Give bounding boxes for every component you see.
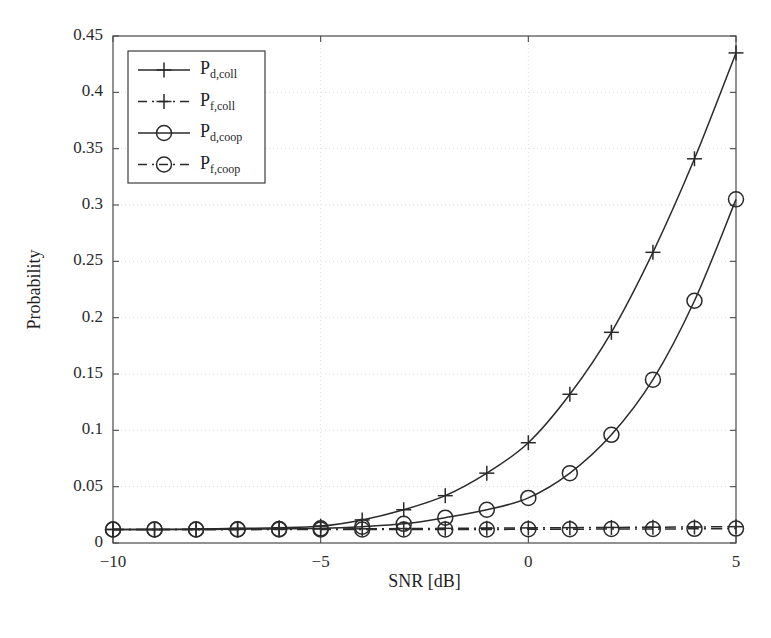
x-tick-label: −5: [312, 552, 330, 571]
x-tick-label: 0: [524, 552, 533, 571]
y-tick-label: 0.45: [73, 25, 103, 44]
y-tick-label: 0.25: [73, 250, 103, 269]
y-tick-label: 0.1: [82, 419, 103, 438]
series-p-d-coop: [106, 192, 744, 537]
legend-box: [128, 51, 265, 183]
figure-container: 00.050.10.150.20.250.30.350.40.45−10−505…: [0, 0, 771, 638]
data-point-marker-plus: [562, 387, 577, 402]
x-tick-label: −10: [100, 552, 127, 571]
data-point-marker-plus: [729, 45, 744, 60]
y-tick-label: 0.4: [82, 81, 104, 100]
y-tick-label: 0.2: [82, 307, 103, 326]
y-tick-label: 0.05: [73, 476, 103, 495]
data-point-marker-plus: [687, 151, 702, 166]
y-tick-label: 0.35: [73, 138, 103, 157]
y-axis-label: Probability: [24, 250, 44, 330]
series-line: [113, 199, 736, 529]
data-point-marker-plus: [479, 466, 494, 481]
y-tick-label: 0: [95, 532, 104, 551]
probability-vs-snr-chart: 00.050.10.150.20.250.30.350.40.45−10−505…: [0, 0, 771, 638]
data-point-marker-plus: [645, 245, 660, 260]
legend-layer: Pd,collPf,collPd,coopPf,coop: [128, 51, 265, 183]
data-point-marker-plus: [521, 520, 536, 535]
data-point-marker-plus: [479, 521, 494, 536]
x-tick-label: 5: [732, 552, 741, 571]
x-axis-label: SNR [dB]: [388, 571, 461, 591]
y-tick-label: 0.3: [82, 194, 103, 213]
y-tick-label: 0.15: [73, 363, 103, 382]
data-point-marker-plus: [438, 488, 453, 503]
data-point-marker-plus: [396, 502, 411, 517]
data-point-marker-plus: [604, 325, 619, 340]
